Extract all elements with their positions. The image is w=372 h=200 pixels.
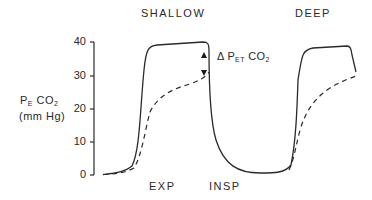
phase-label-insp: INSP [209, 180, 241, 192]
dashed-curve-deep [289, 76, 356, 170]
y-tick-label-40: 40 [62, 35, 86, 47]
arrow-down-icon [201, 70, 207, 76]
y-axis-label-co: CO [33, 94, 54, 106]
dashed-curve [103, 72, 209, 175]
y-tick-label-20: 20 [62, 102, 86, 114]
y-tick-label-0: 0 [62, 168, 86, 180]
annotation-co: CO [245, 50, 265, 62]
section-label-shallow: SHALLOW [141, 7, 205, 19]
y-tick-label-30: 30 [62, 69, 86, 81]
arrow-up-icon [201, 52, 207, 58]
y-axis-units: (mm Hg) [19, 110, 65, 122]
y-axis-label-p: P [20, 94, 28, 106]
y-axis-label: PE CO2 [20, 94, 58, 107]
phase-label-exp: EXP [149, 180, 176, 192]
annotation-sub-et: ET [235, 56, 245, 63]
y-axis-label-sub2: 2 [54, 100, 58, 107]
delta-petco2-annotation: Δ PET CO2 [217, 50, 270, 63]
annotation-p: P [227, 50, 235, 62]
y-tick-label-10: 10 [62, 135, 86, 147]
annotation-sub-2: 2 [265, 56, 269, 63]
section-label-deep: DEEP [295, 7, 331, 19]
delta-icon: Δ [217, 50, 224, 62]
